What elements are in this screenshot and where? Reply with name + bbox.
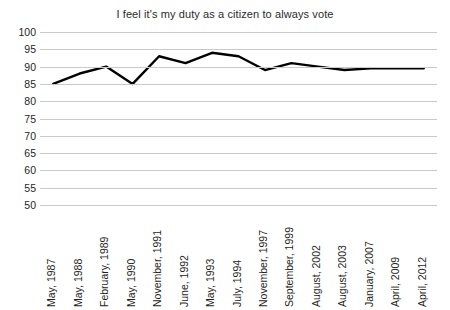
x-axis: May, 1987May, 1988February, 1989May, 199…: [40, 207, 437, 307]
x-tick-label: November, 1991: [152, 230, 163, 307]
y-tick-label: 60: [2, 165, 36, 175]
chart-title: I feel it's my duty as a citizen to alwa…: [0, 8, 450, 20]
y-tick-label: 70: [2, 131, 36, 141]
y-tick-label: 80: [2, 96, 36, 106]
x-tick-label: August, 2003: [337, 245, 348, 307]
plot-area: [40, 32, 437, 205]
gridline-65: [40, 153, 437, 154]
y-tick-label: 55: [2, 183, 36, 193]
y-axis: 10095908580757065605550: [0, 32, 36, 205]
y-tick-label: 100: [2, 27, 36, 37]
x-tick-label: April, 2012: [417, 257, 428, 307]
x-tick-label: June, 1992: [179, 255, 190, 307]
y-tick-label: 75: [2, 114, 36, 124]
x-tick-label: July, 1994: [232, 260, 243, 307]
gridline-75: [40, 119, 437, 120]
y-tick-label: 95: [2, 44, 36, 54]
x-tick-label: May, 1990: [126, 259, 137, 307]
x-tick-label: April, 2009: [390, 257, 401, 307]
x-tick-label: May, 1993: [205, 259, 216, 307]
x-tick-label: August, 2002: [311, 245, 322, 307]
y-tick-label: 85: [2, 79, 36, 89]
gridline-60: [40, 170, 437, 171]
gridline-85: [40, 84, 437, 85]
y-tick-label: 90: [2, 62, 36, 72]
gridline-100: [40, 32, 437, 33]
gridline-80: [40, 101, 437, 102]
y-tick-label: 50: [2, 200, 36, 210]
x-tick-label: February, 1989: [99, 237, 110, 307]
x-tick-label: January, 2007: [364, 241, 375, 307]
gridline-50: [40, 205, 437, 206]
x-tick-label: September, 1999: [284, 227, 295, 307]
gridline-90: [40, 67, 437, 68]
gridline-55: [40, 188, 437, 189]
x-tick-label: May, 1987: [46, 259, 57, 307]
y-tick-label: 65: [2, 148, 36, 158]
gridline-95: [40, 49, 437, 50]
gridline-70: [40, 136, 437, 137]
x-tick-label: November, 1997: [258, 230, 269, 307]
line-chart: I feel it's my duty as a citizen to alwa…: [0, 0, 450, 310]
x-tick-label: May, 1988: [73, 259, 84, 307]
